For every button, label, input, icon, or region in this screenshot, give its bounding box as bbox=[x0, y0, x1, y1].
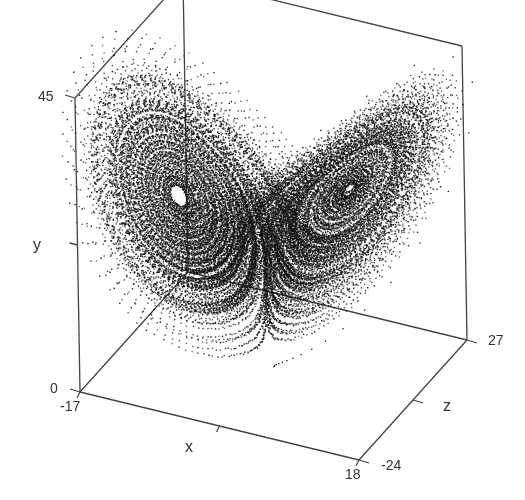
y-axis-title: y bbox=[33, 236, 41, 254]
lorenz-attractor-plot bbox=[0, 0, 525, 500]
y-axis-min-label: 0 bbox=[50, 380, 58, 396]
x-axis-max-label: 18 bbox=[345, 466, 361, 482]
y-axis-max-label: 45 bbox=[38, 88, 54, 104]
x-axis-title: x bbox=[185, 438, 193, 456]
z-axis-max-label: 27 bbox=[488, 332, 504, 348]
z-axis-title: z bbox=[443, 397, 451, 415]
z-axis-min-label: -24 bbox=[381, 457, 401, 473]
x-axis-min-label: -17 bbox=[60, 398, 80, 414]
